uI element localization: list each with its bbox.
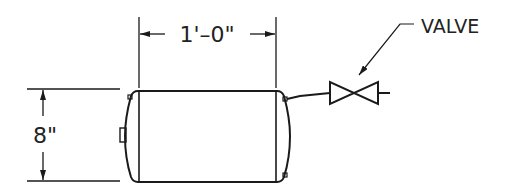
width-dimension: 1'–0" — [139, 17, 276, 88]
tank-left-head — [125, 91, 138, 182]
width-dimension-text: 1'–0" — [179, 22, 234, 47]
tank-right-head — [277, 91, 290, 182]
valve-label: VALVE — [421, 15, 479, 37]
valve-callout: VALVE — [359, 15, 479, 75]
height-dimension-text: 8" — [33, 123, 57, 148]
valve-icon — [330, 82, 378, 104]
height-dimension: 8" — [27, 89, 120, 181]
drawing-canvas: 1'–0" 8" VALVE — [0, 0, 520, 190]
pipe — [287, 93, 330, 99]
valve-assembly — [287, 82, 390, 104]
tank — [120, 91, 290, 182]
leader-line — [359, 24, 414, 75]
